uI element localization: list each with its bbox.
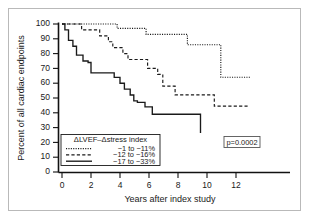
legend-label-solid: −17 to −33% bbox=[113, 157, 155, 166]
y-tick-label-20: 20 bbox=[41, 137, 51, 147]
y-tick-label-80: 80 bbox=[41, 48, 51, 58]
y-tick-label-30: 30 bbox=[41, 122, 51, 132]
y-tick-label-10: 10 bbox=[41, 151, 51, 161]
series-line-dashed bbox=[62, 24, 248, 106]
y-tick-label-0: 0 bbox=[45, 166, 50, 176]
series-line-dotted bbox=[62, 24, 251, 77]
y-tick-label-40: 40 bbox=[41, 107, 51, 117]
x-tick-label-8: 8 bbox=[176, 180, 181, 190]
x-tick-label-2: 2 bbox=[89, 180, 94, 190]
x-tick-label-10: 10 bbox=[202, 180, 212, 190]
pvalue-label: p=0.0002 bbox=[226, 138, 257, 147]
y-tick-label-100: 100 bbox=[36, 18, 50, 28]
x-axis-label: Years after index study bbox=[124, 194, 216, 204]
x-tick-label-0: 0 bbox=[60, 180, 65, 190]
x-tick-label-4: 4 bbox=[118, 180, 123, 190]
y-tick-label-60: 60 bbox=[41, 77, 51, 87]
survival-chart: Percent of all cardiac endpoints 100 90 … bbox=[0, 0, 311, 221]
x-tick-label-12: 12 bbox=[231, 180, 241, 190]
legend: ΔLVEF–Δstress index −1 to −11% −12 to −1… bbox=[61, 135, 160, 166]
y-tick-label-50: 50 bbox=[41, 92, 51, 102]
series-line-solid bbox=[62, 24, 201, 133]
y-axis-ticks bbox=[53, 24, 59, 172]
y-tick-label-70: 70 bbox=[41, 63, 51, 73]
figure-container: Percent of all cardiac endpoints 100 90 … bbox=[0, 0, 311, 221]
x-axis-ticks bbox=[62, 173, 236, 179]
y-tick-label-90: 90 bbox=[41, 33, 51, 43]
pvalue-annotation: p=0.0002 bbox=[224, 137, 260, 148]
x-tick-label-6: 6 bbox=[147, 180, 152, 190]
y-axis-label: Percent of all cardiac endpoints bbox=[16, 35, 26, 161]
legend-title: ΔLVEF–Δstress index bbox=[74, 135, 148, 144]
